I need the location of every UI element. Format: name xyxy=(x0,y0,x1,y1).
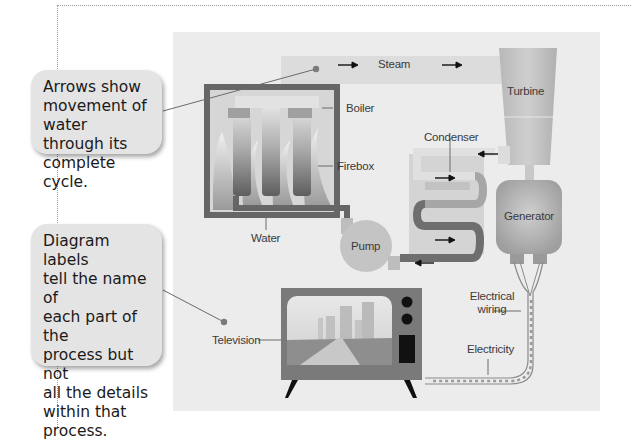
label-firebox: Firebox xyxy=(337,160,374,173)
label-pump: Pump xyxy=(351,240,380,253)
label-electrical-wiring-line2: wiring xyxy=(467,303,517,316)
label-steam: Steam xyxy=(378,58,410,71)
callout-anchor-dot xyxy=(221,319,227,325)
callout-arrows-explanation: Arrows show movement of water through it… xyxy=(31,70,162,154)
callout-labels-explanation: Diagram labels tell the name of each par… xyxy=(31,224,162,366)
label-electricity: Electricity xyxy=(467,343,514,356)
label-condenser: Condenser xyxy=(424,131,478,144)
condenser xyxy=(400,152,495,258)
label-television: Television xyxy=(212,334,261,347)
turbine xyxy=(498,48,557,181)
television xyxy=(281,288,422,398)
boiler xyxy=(228,96,319,196)
callout-text: Diagram labels tell the name of each par… xyxy=(43,232,150,441)
label-turbine: Turbine xyxy=(507,85,544,98)
electrical-wiring xyxy=(425,262,543,384)
callout-text: Arrows show movement of water through it… xyxy=(43,78,150,192)
label-water: Water xyxy=(251,232,280,245)
label-generator: Generator xyxy=(504,210,554,223)
label-boiler: Boiler xyxy=(346,102,374,115)
callout-anchor-dot xyxy=(313,66,319,72)
label-electrical-wiring-line1: Electrical xyxy=(467,290,517,303)
label-electrical-wiring: Electrical wiring xyxy=(467,290,517,316)
